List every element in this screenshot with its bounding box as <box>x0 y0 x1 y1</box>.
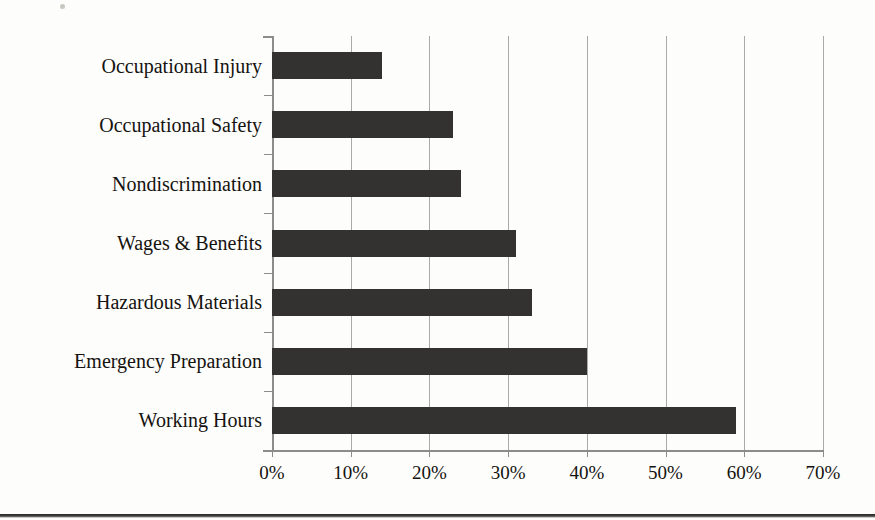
x-axis-label-70%: 70% <box>788 462 858 484</box>
y-tick-5 <box>264 332 272 333</box>
chart-page: 0%10%20%30%40%50%60%70%Occupational Inju… <box>0 0 875 520</box>
y-tick-4 <box>264 273 272 274</box>
y-tick-1 <box>264 95 272 96</box>
category-label-occupational-safety: Occupational Safety <box>0 115 262 135</box>
horizontal-bar-chart: 0%10%20%30%40%50%60%70%Occupational Inju… <box>0 0 875 520</box>
x-axis-label-50%: 50% <box>631 462 701 484</box>
gridline-40% <box>587 36 588 450</box>
bar-hazardous-materials <box>272 289 532 316</box>
x-tick-20% <box>429 450 430 457</box>
x-tick-50% <box>666 450 667 457</box>
x-tick-0% <box>272 450 273 457</box>
category-label-working-hours: Working Hours <box>0 410 262 430</box>
y-axis-top-cap <box>263 36 272 38</box>
y-tick-3 <box>264 213 272 214</box>
bar-emergency-preparation <box>272 348 587 375</box>
category-label-wages-benefits: Wages & Benefits <box>0 233 262 253</box>
x-tick-70% <box>823 450 824 457</box>
page-bottom-rule-shadow <box>0 517 875 518</box>
x-tick-10% <box>351 450 352 457</box>
y-tick-2 <box>264 154 272 155</box>
bar-occupational-injury <box>272 52 382 79</box>
x-axis-label-0%: 0% <box>237 462 307 484</box>
category-label-hazardous-materials: Hazardous Materials <box>0 292 262 312</box>
gridline-60% <box>744 36 745 450</box>
x-axis-label-20%: 20% <box>394 462 464 484</box>
bar-working-hours <box>272 407 736 434</box>
category-label-nondiscrimination: Nondiscrimination <box>0 174 262 194</box>
category-label-occupational-injury: Occupational Injury <box>0 56 262 76</box>
x-axis-label-60%: 60% <box>709 462 779 484</box>
category-label-emergency-preparation: Emergency Preparation <box>0 351 262 371</box>
gridline-50% <box>666 36 667 450</box>
x-axis-label-40%: 40% <box>552 462 622 484</box>
x-tick-40% <box>587 450 588 457</box>
x-axis-line <box>272 450 824 452</box>
x-tick-60% <box>744 450 745 457</box>
y-tick-6 <box>264 391 272 392</box>
y-axis-bottom-cap <box>263 450 272 452</box>
x-axis-label-10%: 10% <box>316 462 386 484</box>
gridline-70% <box>823 36 824 450</box>
bar-wages-benefits <box>272 230 516 257</box>
bar-occupational-safety <box>272 111 453 138</box>
bar-nondiscrimination <box>272 170 461 197</box>
x-tick-30% <box>508 450 509 457</box>
x-axis-label-30%: 30% <box>473 462 543 484</box>
